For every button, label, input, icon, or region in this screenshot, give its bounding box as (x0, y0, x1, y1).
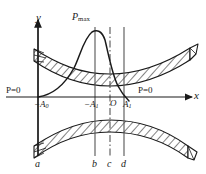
tick-minus-A0-base: −A (34, 99, 46, 109)
p-max-subscript: max (78, 15, 90, 22)
vline-label-c: c (107, 159, 111, 169)
tick-label-A1: A1 (123, 100, 132, 109)
vline-label-a: a (35, 159, 40, 169)
p-max-label: Pmax (72, 12, 90, 23)
x-axis-label: x (194, 90, 199, 101)
lower-hatched-band (34, 120, 197, 160)
p-zero-right-label: P=0 (138, 86, 153, 95)
figure-canvas (0, 0, 206, 174)
tick-label-minus-A1: −A1 (84, 100, 99, 109)
tick-A1-sub: 1 (129, 103, 132, 109)
tick-label-minus-A0: −A0 (34, 100, 49, 109)
p-zero-left-label: P=0 (6, 86, 21, 95)
origin-label: O (110, 99, 117, 108)
tick-minus-A1-base: −A (84, 99, 96, 109)
tick-minus-A1-sub: 1 (96, 103, 99, 109)
vline-label-b: b (92, 159, 97, 169)
tick-minus-A0-sub: 0 (46, 103, 49, 109)
pressure-distribution-figure: y x Pmax P=0 P=0 −A0 −A1 O A1 a b c d (0, 0, 206, 174)
vline-label-d: d (121, 159, 126, 169)
y-axis-label: y (36, 12, 41, 23)
